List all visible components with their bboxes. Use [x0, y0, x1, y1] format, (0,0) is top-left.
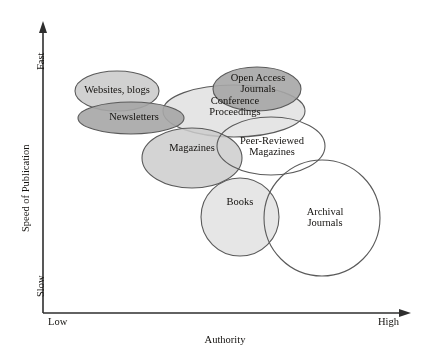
y-axis-arrow-icon	[39, 21, 47, 33]
bubble-open-access-journals[interactable]	[213, 67, 301, 111]
y-axis-tick-slow: Slow	[35, 275, 46, 297]
bubble-magazines[interactable]	[142, 128, 242, 188]
y-axis-tick-fast: Fast	[35, 52, 46, 70]
diagram-canvas: Websites, blogs Newsletters Open Access …	[0, 0, 426, 358]
x-axis-label: Authority	[180, 334, 270, 345]
bubble-books[interactable]	[201, 178, 279, 256]
y-axis-label: Speed of Publication	[20, 145, 31, 233]
diagram-svg	[0, 0, 426, 358]
x-axis-tick-high: High	[378, 316, 399, 327]
bubble-group	[75, 67, 380, 276]
x-axis-tick-low: Low	[48, 316, 67, 327]
bubble-newsletters[interactable]	[78, 102, 184, 134]
bubble-archival-journals[interactable]	[264, 160, 380, 276]
x-axis-arrow-icon	[399, 309, 411, 317]
